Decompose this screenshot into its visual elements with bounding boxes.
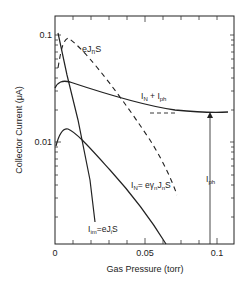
label-ejns: eJnS [82,44,101,55]
x-axis-title: Gas Pressure (torr) [106,264,183,274]
series-ejns [58,38,177,195]
ytick-label-0.01: 0.01 [34,137,52,147]
top-ticks [73,16,217,22]
label-iph: Iph [206,174,215,185]
label-in-plus-iph: IN + Iph [141,91,166,102]
ytick-label-0.1: 0.1 [39,30,52,40]
right-ticks [230,35,234,217]
xtick-label-0.1: 0.1 [211,248,224,258]
series-iim [58,33,95,222]
label-in: IN= eγnJnS [131,180,171,191]
y-axis-title: Collector Current (μA) [14,86,24,174]
label-iim: Iim=eJiS [88,224,118,235]
chart: 0.1 0.01 0 0.05 0.1 Gas Pressure (torr) … [0,0,247,287]
xtick-label-0: 0 [52,248,57,258]
bottom-ticks [73,238,217,244]
left-ticks [55,35,61,217]
xtick-label-0.05: 0.05 [136,248,154,258]
